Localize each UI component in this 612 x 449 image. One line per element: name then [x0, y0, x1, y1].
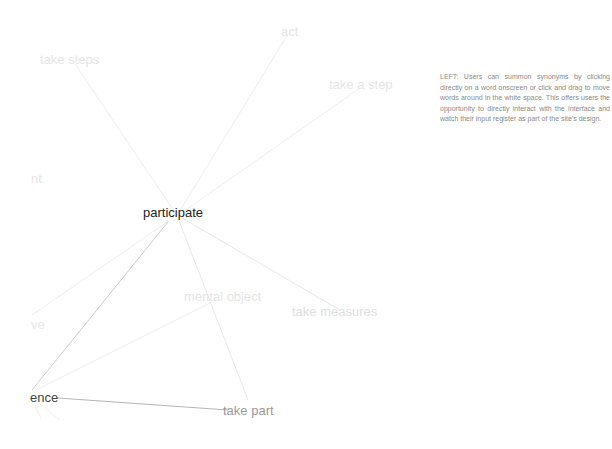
synonym-word[interactable]: act — [281, 25, 298, 38]
synonym-word[interactable]: take part — [223, 404, 274, 417]
edge-layer — [0, 0, 612, 449]
graph-edge — [178, 218, 248, 400]
description-caption: LEFT: Users can summon synonyms by click… — [440, 72, 610, 125]
graph-edge — [75, 64, 176, 214]
graph-edge — [36, 302, 212, 390]
graph-edge — [178, 34, 288, 214]
center-word-participate[interactable]: participate — [143, 206, 203, 219]
graph-edge — [180, 88, 360, 214]
synonym-word[interactable]: take steps — [40, 53, 99, 66]
synonym-word[interactable]: take measures — [292, 305, 377, 318]
word-graph-canvas[interactable]: acttake stepstake a stepntmental objectt… — [0, 0, 612, 449]
synonym-word[interactable]: nt — [31, 172, 42, 185]
graph-edge — [40, 404, 60, 420]
graph-edge — [32, 222, 168, 390]
synonym-word[interactable]: take a step — [329, 78, 393, 91]
graph-edge — [32, 220, 170, 315]
synonym-word[interactable]: ence — [30, 391, 58, 404]
graph-edge — [34, 404, 42, 420]
synonym-word[interactable]: mental object — [184, 290, 261, 303]
synonym-word[interactable]: ve — [31, 318, 45, 331]
graph-edge — [58, 398, 228, 410]
